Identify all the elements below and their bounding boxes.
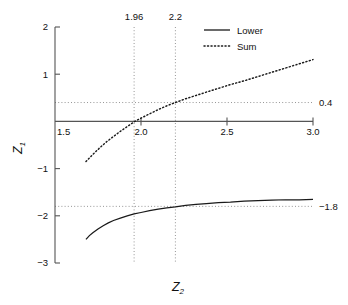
x-axis-title: Z2 bbox=[171, 280, 185, 296]
chart-plot-area: 21−1−2−3 1.52.02.53.0 1.962.2 0.4−1.8 Lo… bbox=[0, 0, 348, 305]
y-tick-label-4: −3 bbox=[37, 257, 48, 268]
x-tick-label-0: 1.5 bbox=[57, 126, 70, 137]
legend-label-sum: Sum bbox=[237, 41, 257, 52]
legend: LowerSum bbox=[204, 25, 263, 52]
series-line-lower bbox=[86, 199, 313, 239]
vertical-gridlines-group bbox=[134, 27, 175, 263]
y-axis-title: Z1 bbox=[11, 142, 27, 155]
top-guide-label-1-96: 1.96 bbox=[125, 11, 144, 22]
y-tick-label-1: 1 bbox=[43, 69, 48, 80]
right-guide-label-0neg4: 0.4 bbox=[319, 97, 332, 108]
series-line-sum bbox=[86, 60, 313, 162]
y-tick-label-2: −1 bbox=[37, 163, 48, 174]
y-tick-label-3: −2 bbox=[37, 210, 48, 221]
top-guide-labels-group: 1.962.2 bbox=[125, 11, 182, 22]
legend-label-lower: Lower bbox=[237, 25, 263, 36]
x-tick-label-1: 2.0 bbox=[134, 126, 147, 137]
x-tick-label-3: 3.0 bbox=[306, 126, 319, 137]
y-axis-tick-labels-group: 21−1−2−3 bbox=[37, 21, 48, 268]
y-axis-ticks-group bbox=[55, 27, 60, 263]
right-guide-label-neg1-8: −1.8 bbox=[319, 201, 338, 212]
axes-group bbox=[55, 27, 313, 263]
x-tick-label-2: 2.5 bbox=[220, 126, 233, 137]
y-tick-label-0: 2 bbox=[43, 21, 48, 32]
top-guide-label-2-2: 2.2 bbox=[169, 11, 182, 22]
data-series-group bbox=[86, 60, 313, 240]
chart-container: 21−1−2−3 1.52.02.53.0 1.962.2 0.4−1.8 Lo… bbox=[0, 0, 348, 305]
right-guide-labels-group: 0.4−1.8 bbox=[319, 97, 338, 212]
x-axis-tick-labels-group: 1.52.02.53.0 bbox=[57, 126, 320, 137]
